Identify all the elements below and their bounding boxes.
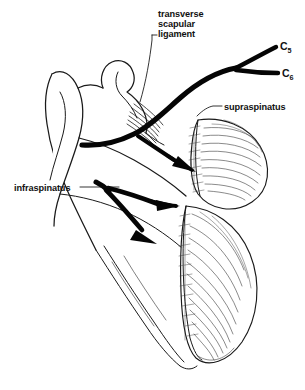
leader-supraspinatus <box>197 106 222 116</box>
leader-transverse-scapular-ligament-stem <box>140 35 152 102</box>
scapula-body-hatch-2 <box>124 256 166 320</box>
label-transverse-scapular-ligament-line3: ligament <box>158 29 195 39</box>
label-c5: C5 <box>280 40 291 55</box>
arrowhead-infraspinatus-lower <box>130 230 157 244</box>
infraspinatus-belly <box>181 206 257 363</box>
label-c6-subscript: 6 <box>289 73 293 82</box>
scapula-inferior-angle <box>180 366 197 369</box>
svg-text:C6: C6 <box>282 67 293 82</box>
label-infraspinatus: infraspinatus <box>14 183 70 193</box>
label-supraspinatus: supraspinatus <box>224 102 286 112</box>
coracoid-process <box>101 61 147 133</box>
nerve-root-c5 <box>236 47 276 68</box>
scapula-lateral-border-inner <box>104 246 184 362</box>
anatomy-figure: transverse scapular ligament supraspinat… <box>0 0 305 390</box>
label-c5-subscript: 5 <box>287 46 291 55</box>
label-c6: C6 <box>282 67 293 82</box>
scapula-body-hatch-1 <box>112 262 154 326</box>
nerve-branch-node <box>96 182 109 191</box>
supraspinatus-muscle <box>189 119 268 209</box>
suprascapular-notch-border <box>78 85 103 88</box>
nerve-root-c6 <box>236 70 278 73</box>
svg-text:C5: C5 <box>280 40 291 55</box>
scapula-lateral-border <box>96 250 180 366</box>
label-transverse-scapular-ligament-line2: scapular <box>158 19 196 29</box>
infraspinatus-muscle <box>179 206 257 363</box>
scapula-bone <box>46 61 197 369</box>
supraspinatus-belly <box>191 119 268 209</box>
label-transverse-scapular-ligament-line1: transverse <box>158 9 203 19</box>
anatomy-illustration: transverse scapular ligament supraspinat… <box>0 0 305 390</box>
